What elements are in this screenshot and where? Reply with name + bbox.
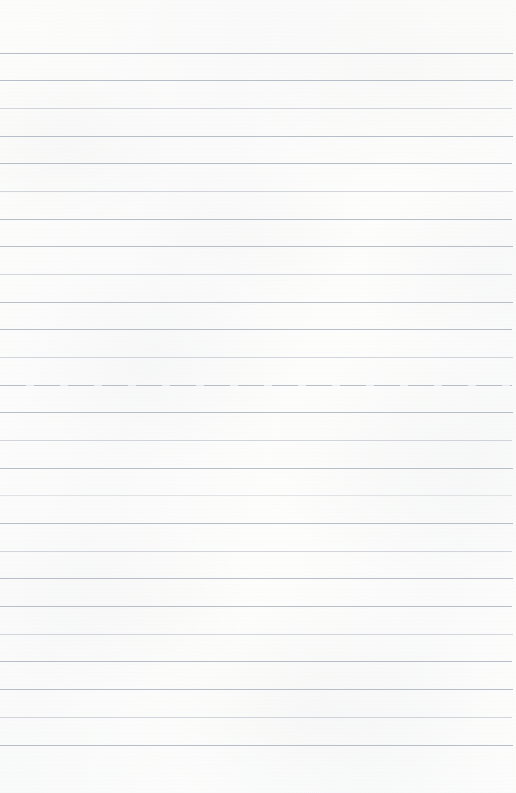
writing-area[interactable] [0,0,516,793]
notebook-page [0,0,516,793]
